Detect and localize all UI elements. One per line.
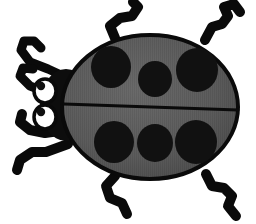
eye-upper-pupil (37, 82, 45, 90)
spot-lower-right (175, 120, 217, 164)
eye-lower-pupil (37, 108, 45, 116)
spot-upper-right (176, 48, 218, 92)
spot-upper-left (91, 46, 131, 88)
spot-upper-middle (138, 61, 172, 97)
spot-lower-middle (137, 124, 173, 162)
image-canvas: Gray and black ladybug beetle with six b… (0, 0, 256, 224)
eye-upper-white (34, 79, 56, 103)
spot-lower-left (94, 121, 134, 163)
eye-lower-white (34, 105, 56, 129)
ladybug-illustration (0, 0, 256, 224)
